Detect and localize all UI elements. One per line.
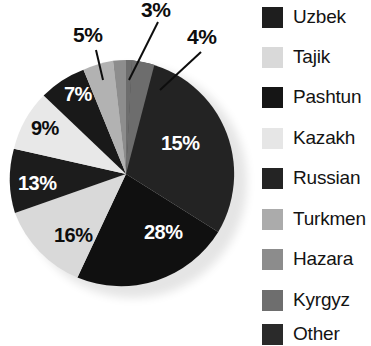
legend-label-pashtun: Pashtun bbox=[293, 86, 361, 108]
legend-item-russian[interactable]: Russian bbox=[255, 163, 360, 193]
legend-swatch-kyrgyz bbox=[262, 290, 283, 311]
legend-swatch-turkmen bbox=[262, 209, 283, 230]
legend-item-turkmen[interactable]: Turkmen bbox=[255, 204, 366, 234]
slice-label-13: 13% bbox=[18, 172, 57, 195]
legend-item-kazakh[interactable]: Kazakh bbox=[255, 123, 355, 153]
legend-swatch-pashtun bbox=[262, 87, 283, 108]
slice-label-3: 3% bbox=[141, 0, 170, 22]
legend-label-tajik: Tajik bbox=[293, 46, 330, 68]
legend-label-turkmen: Turkmen bbox=[293, 208, 366, 230]
slice-label-28: 28% bbox=[144, 221, 183, 244]
legend-item-uzbek[interactable]: Uzbek bbox=[255, 2, 346, 32]
legend-swatch-tajik bbox=[262, 47, 283, 68]
slice-label-7: 7% bbox=[64, 83, 92, 106]
legend-label-kazakh: Kazakh bbox=[293, 127, 355, 149]
legend-label-hazara: Hazara bbox=[293, 248, 353, 270]
legend-swatch-russian bbox=[262, 168, 283, 189]
slice-label-9: 9% bbox=[31, 117, 59, 140]
legend-label-russian: Russian bbox=[293, 167, 360, 189]
legend-item-kyrgyz[interactable]: Kyrgyz bbox=[255, 285, 350, 315]
pie-chart-figure: 15% 28% 16% 13% 9% 7% 5% 3% 4% Uzbek Taj… bbox=[0, 0, 371, 346]
legend-swatch-uzbek bbox=[262, 7, 283, 28]
legend-label-other: Other bbox=[293, 323, 340, 345]
legend-label-kyrgyz: Kyrgyz bbox=[293, 289, 350, 311]
legend-item-other[interactable]: Other bbox=[255, 319, 340, 346]
legend-swatch-kazakh bbox=[262, 128, 283, 149]
legend-swatch-hazara bbox=[262, 249, 283, 270]
chart-plot-area: 15% 28% 16% 13% 9% 7% 5% 3% 4% bbox=[0, 0, 255, 346]
legend-item-tajik[interactable]: Tajik bbox=[255, 42, 330, 72]
legend-swatch-other bbox=[262, 324, 283, 345]
legend: Uzbek Tajik Pashtun Kazakh Russian Turkm… bbox=[255, 0, 371, 346]
slice-label-15: 15% bbox=[161, 132, 200, 155]
slice-label-4: 4% bbox=[187, 25, 216, 49]
slice-label-16: 16% bbox=[54, 224, 93, 247]
legend-item-hazara[interactable]: Hazara bbox=[255, 244, 353, 274]
legend-label-uzbek: Uzbek bbox=[293, 6, 346, 28]
slice-label-5: 5% bbox=[73, 23, 102, 47]
legend-item-pashtun[interactable]: Pashtun bbox=[255, 82, 361, 112]
